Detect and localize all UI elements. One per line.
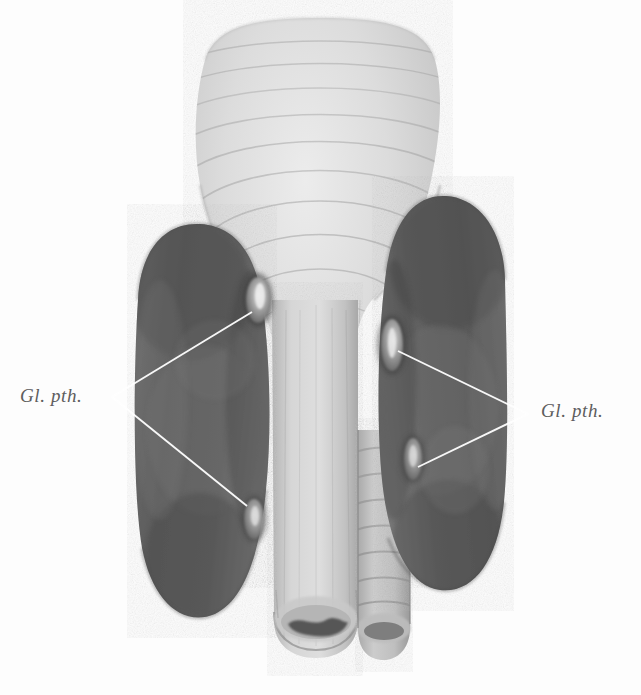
parathyroid-label-right: Gl. pth. xyxy=(541,401,603,420)
parathyroid-upper-left xyxy=(243,273,273,327)
parathyroid-lower-right xyxy=(400,434,426,484)
parathyroid-label-left: Gl. pth. xyxy=(20,386,82,405)
anatomy-illustration xyxy=(0,0,641,695)
figure-container: Gl. pth. Gl. pth. xyxy=(0,0,641,695)
parathyroid-lower-left xyxy=(241,495,267,543)
trachea-lumen xyxy=(364,622,404,640)
parathyroid-upper-right xyxy=(377,315,407,375)
esophagus-group xyxy=(272,300,358,658)
